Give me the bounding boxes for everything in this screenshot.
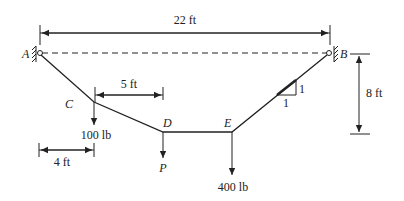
- span-label: 22 ft: [174, 13, 197, 27]
- load-label-d: P: [158, 161, 167, 175]
- cable: [41, 55, 327, 132]
- label-a: A: [21, 47, 30, 61]
- label-e: E: [223, 116, 232, 130]
- cd-dimension-label: 5 ft: [121, 77, 138, 91]
- load-label-c: 100 lb: [81, 128, 111, 142]
- cable-diagram: 22 ft A B C D E 100 lb P 400 lb: [0, 0, 404, 201]
- sag-dimension-label: 8 ft: [366, 86, 383, 100]
- label-c: C: [65, 97, 74, 111]
- ac-dimension-label: 4 ft: [54, 155, 71, 169]
- label-b: B: [340, 47, 348, 61]
- support-a-icon: [32, 46, 43, 62]
- label-d: D: [162, 116, 172, 130]
- slope-rise: 1: [299, 82, 305, 96]
- slope-run: 1: [283, 96, 289, 110]
- ac-dimension: 4 ft: [39, 143, 94, 169]
- span-dimension: 22 ft: [40, 13, 330, 45]
- cd-dimension: 5 ft: [95, 77, 163, 102]
- sag-dimension: 8 ft: [350, 54, 383, 134]
- slope-triangle-icon: 1 1: [277, 80, 305, 110]
- support-b-icon: [327, 46, 339, 62]
- load-label-e: 400 lb: [218, 180, 248, 194]
